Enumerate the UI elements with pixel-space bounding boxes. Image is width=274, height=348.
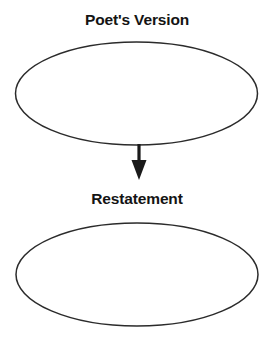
- connector-poets-version-to-restatement: [0, 142, 274, 184]
- node-label-restatement: Restatement: [0, 190, 274, 207]
- down-arrow-icon: [0, 142, 274, 184]
- ellipse-outline-top: [0, 38, 274, 150]
- ellipse-outline-bottom: [0, 219, 274, 331]
- flow-diagram-canvas: Poet's Version Restatement: [0, 0, 274, 348]
- ellipse-shape-poets-version: [0, 38, 274, 150]
- ellipse-shape-restatement: [0, 219, 274, 331]
- node-label-poets-version: Poet's Version: [0, 11, 274, 28]
